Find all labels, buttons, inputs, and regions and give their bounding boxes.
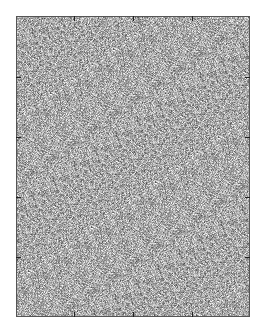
x-tick-mark — [74, 312, 75, 317]
y-tick-mark — [16, 257, 21, 258]
x-tick-mark — [192, 312, 193, 317]
x-tick-mark — [133, 312, 134, 317]
y-tick-mark — [245, 137, 250, 138]
x-tick-mark — [133, 16, 134, 21]
y-tick-mark — [245, 77, 250, 78]
y-tick-mark — [16, 197, 21, 198]
y-tick-mark — [245, 197, 250, 198]
x-tick-mark — [192, 16, 193, 21]
y-tick-mark — [16, 137, 21, 138]
noise-image — [17, 17, 249, 316]
y-tick-mark — [245, 257, 250, 258]
x-tick-mark — [74, 16, 75, 21]
y-tick-mark — [16, 77, 21, 78]
plot-area — [16, 16, 250, 317]
